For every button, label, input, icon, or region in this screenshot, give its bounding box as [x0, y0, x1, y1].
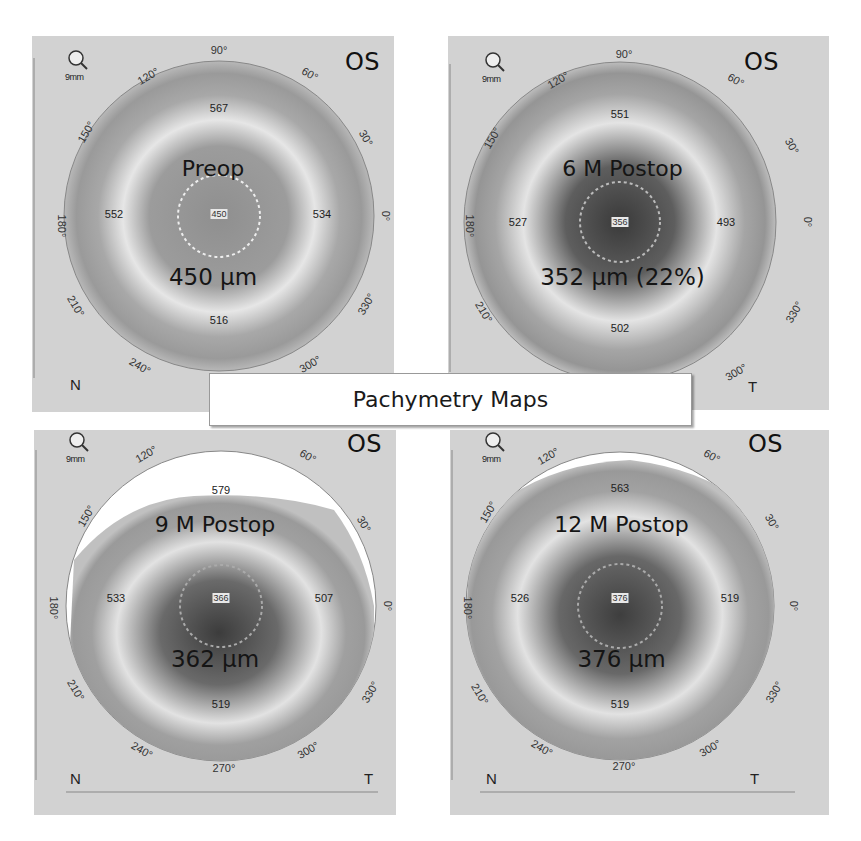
degree-90: 90° [616, 48, 633, 60]
nasal-thickness: 552 [105, 208, 123, 220]
superior-thickness: 567 [210, 102, 228, 114]
degree-180: 180° [56, 215, 68, 238]
degree-0: 0° [380, 211, 392, 222]
degree-180: 180° [48, 597, 60, 620]
nasal-thickness: 527 [509, 216, 527, 228]
temporal-thickness: 493 [717, 216, 735, 228]
magnifier-icon[interactable]: 9mm [482, 50, 512, 84]
inferior-thickness: 519 [212, 698, 230, 710]
nasal-label: N [70, 770, 81, 787]
central-thickness-label: 362 µm [34, 646, 396, 672]
magnifier-icon[interactable]: 9mm [66, 430, 96, 464]
temporal-thickness: 534 [313, 208, 331, 220]
zoom-scale-label: 9mm [65, 72, 84, 82]
figure-title: Pachymetry Maps [353, 387, 548, 412]
magnifier-icon[interactable]: 9mm [482, 430, 512, 464]
pachymetry-map-9m-postop: OS 9mm N T 60° 120° 150° 30° 180° 0° 210… [34, 430, 396, 815]
zoom-scale-label: 9mm [66, 454, 85, 464]
inferior-thickness: 516 [210, 314, 228, 326]
eye-label: OS [347, 430, 382, 458]
degree-270: 270° [613, 760, 636, 772]
thickness-map-graphic [448, 36, 829, 410]
zoom-scale-label: 9mm [482, 454, 501, 464]
temporal-thickness: 519 [721, 592, 739, 604]
eye-label: OS [345, 48, 380, 76]
center-thickness: 356 [611, 217, 628, 227]
nasal-thickness: 533 [107, 592, 125, 604]
thickness-map-graphic [32, 36, 394, 412]
timepoint-label: Preop [32, 156, 394, 181]
degree-0: 0° [802, 217, 814, 228]
figure-title-banner: Pachymetry Maps [209, 373, 692, 426]
eye-label: OS [744, 48, 779, 76]
nasal-label: N [70, 376, 81, 393]
superior-thickness: 579 [212, 484, 230, 496]
superior-thickness: 551 [611, 108, 629, 120]
center-thickness: 366 [212, 593, 229, 603]
inferior-thickness: 502 [611, 322, 629, 334]
thickness-map-graphic [450, 430, 829, 815]
zoom-scale-label: 9mm [482, 74, 501, 84]
central-thickness-label: 352 µm (22%) [448, 264, 813, 290]
degree-0: 0° [382, 601, 394, 612]
temporal-label: T [364, 770, 373, 787]
central-thickness-label: 376 µm [450, 646, 811, 672]
pachymetry-map-preop: OS 9mm N 90° 60° 120° 150° 30° 180° 0° 2… [32, 36, 394, 412]
eye-label: OS [748, 430, 783, 458]
pachymetry-map-12m-postop: OS 9mm N T 60° 120° 150° 30° 180° 0° 210… [450, 430, 829, 815]
timepoint-label: 12 M Postop [450, 512, 811, 537]
degree-180: 180° [462, 597, 474, 620]
timepoint-label: 9 M Postop [34, 512, 396, 537]
degree-90: 90° [211, 44, 228, 56]
superior-thickness: 563 [611, 482, 629, 494]
temporal-label: T [750, 770, 759, 787]
degree-180: 180° [464, 215, 476, 238]
magnifier-icon[interactable]: 9mm [65, 48, 95, 82]
temporal-thickness: 507 [315, 592, 333, 604]
center-thickness: 376 [611, 593, 628, 603]
center-thickness: 450 [210, 209, 227, 219]
inferior-thickness: 519 [611, 698, 629, 710]
pachymetry-map-6m-postop: OS 9mm T 90° 60° 120° 150° 30° 180° 0° 2… [448, 36, 829, 410]
degree-270: 270° [213, 762, 236, 774]
degree-0: 0° [788, 601, 800, 612]
temporal-label: T [748, 378, 757, 395]
central-thickness-label: 450 µm [32, 264, 394, 290]
timepoint-label: 6 M Postop [448, 156, 813, 181]
nasal-label: N [486, 770, 497, 787]
nasal-thickness: 526 [511, 592, 529, 604]
